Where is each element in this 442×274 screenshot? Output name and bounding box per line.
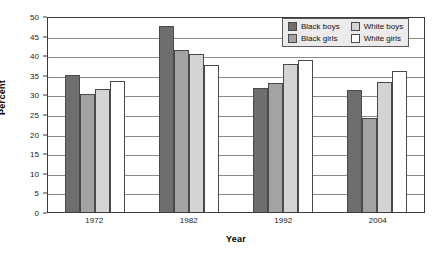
bar xyxy=(298,60,313,212)
y-tick-label: 45 xyxy=(30,32,39,41)
legend-swatch xyxy=(288,22,297,31)
bar xyxy=(283,64,298,212)
y-axis: 05101520253035404550 xyxy=(0,17,47,213)
legend-label: Black boys xyxy=(301,22,340,31)
y-tick-label: 30 xyxy=(30,91,39,100)
y-tick-label: 40 xyxy=(30,52,39,61)
legend-grid: Black boysWhite boysBlack girlsWhite gir… xyxy=(288,22,403,43)
bar-group xyxy=(236,18,330,212)
y-tick-label: 35 xyxy=(30,71,39,80)
x-axis-title: Year xyxy=(47,234,425,244)
legend-label: White boys xyxy=(364,22,404,31)
y-tick-label: 25 xyxy=(30,111,39,120)
y-tick-label: 15 xyxy=(30,150,39,159)
x-axis: 1972198219922004 xyxy=(47,216,425,230)
x-tick-label: 1972 xyxy=(47,216,142,230)
bar xyxy=(159,26,174,212)
legend-swatch xyxy=(351,22,360,31)
y-tick-label: 10 xyxy=(30,169,39,178)
legend-item: Black girls xyxy=(288,34,340,43)
legend-item: White girls xyxy=(351,34,404,43)
y-tick-label: 0 xyxy=(35,209,39,218)
bars-layer xyxy=(48,18,424,212)
bar xyxy=(268,83,283,212)
bar xyxy=(253,88,268,212)
bar-group xyxy=(330,18,424,212)
legend-swatch xyxy=(351,34,360,43)
legend-label: White girls xyxy=(364,34,401,43)
legend-label: Black girls xyxy=(301,34,337,43)
bar-chart: Percent 05101520253035404550 19721982199… xyxy=(0,0,442,274)
bar-group xyxy=(48,18,142,212)
bar xyxy=(347,90,362,212)
y-tick-label: 20 xyxy=(30,130,39,139)
bar xyxy=(110,81,125,212)
bar xyxy=(65,75,80,212)
x-tick-label: 1992 xyxy=(236,216,331,230)
chart-legend: Black boysWhite boysBlack girlsWhite gir… xyxy=(282,18,409,47)
y-tick-label: 50 xyxy=(30,13,39,22)
bar-group xyxy=(142,18,236,212)
bar xyxy=(174,50,189,212)
y-tick-label: 5 xyxy=(35,189,39,198)
bar xyxy=(95,89,110,212)
legend-item: Black boys xyxy=(288,22,340,31)
bar xyxy=(204,65,219,212)
bar xyxy=(80,94,95,212)
bar xyxy=(392,71,407,212)
legend-item: White boys xyxy=(351,22,404,31)
bar xyxy=(377,82,392,212)
bar xyxy=(189,54,204,212)
x-tick-label: 2004 xyxy=(331,216,426,230)
bar xyxy=(362,118,377,212)
legend-swatch xyxy=(288,34,297,43)
x-tick-label: 1982 xyxy=(142,216,237,230)
